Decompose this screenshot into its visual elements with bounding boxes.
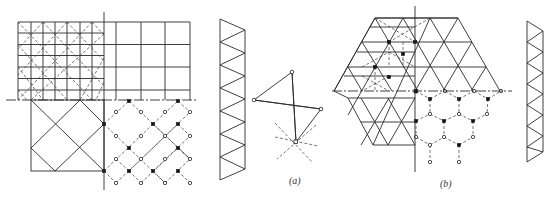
square-grid-plan bbox=[6, 12, 196, 190]
pyramid-joint-detail bbox=[252, 70, 323, 162]
triangular-grid-plan bbox=[332, 6, 512, 172]
diagonal-grid bbox=[31, 100, 104, 171]
diagram-canvas bbox=[0, 0, 546, 200]
caption-a: (a) bbox=[289, 175, 301, 186]
bottom-chord-grid bbox=[18, 22, 104, 100]
node-pattern bbox=[103, 100, 192, 185]
truss-elevation-a bbox=[220, 19, 245, 180]
hex-node-pattern bbox=[414, 89, 503, 163]
truss-elevation-b bbox=[527, 21, 543, 162]
caption-b: (b) bbox=[440, 178, 452, 189]
